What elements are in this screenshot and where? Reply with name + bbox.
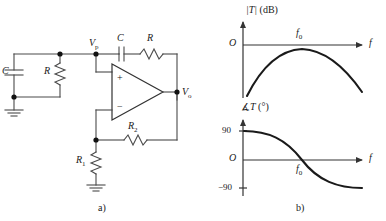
phase-origin-label: O [229, 153, 236, 163]
caption-part-b: b) [296, 203, 304, 213]
magnitude-response-curve [247, 49, 362, 96]
phase-ytick-label-plus90: 90 [222, 126, 231, 135]
phase-ytick-label-minus90: −90 [218, 183, 232, 192]
magnitude-axis-title: |T| (dB) [246, 5, 278, 15]
phase-x-axis-label: f [369, 153, 372, 163]
magnitude-origin-label: O [229, 38, 236, 48]
phase-f0-annotation: f0 [296, 164, 302, 177]
figure-root: C R Vp C R Vo R2 R1 + − a) [0, 0, 386, 221]
charts-layer [0, 0, 386, 221]
phase-axis-title: ∡T (°) [241, 102, 269, 112]
magnitude-f0-annotation: f0 [296, 28, 302, 41]
magnitude-x-axis-label: f [369, 38, 372, 48]
